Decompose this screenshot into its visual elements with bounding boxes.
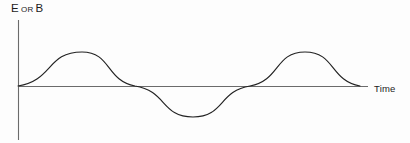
y-axis-label-field-b: B [35, 2, 43, 14]
wave-figure: EORB Time [0, 0, 410, 143]
x-axis-label: Time [374, 84, 396, 94]
y-axis-label-conjunction: OR [21, 5, 34, 14]
sine-wave-curve [18, 52, 360, 117]
wave-plot-svg [0, 0, 410, 143]
y-axis-label-field-e: E [11, 2, 19, 14]
y-axis-label: EORB [11, 3, 43, 15]
